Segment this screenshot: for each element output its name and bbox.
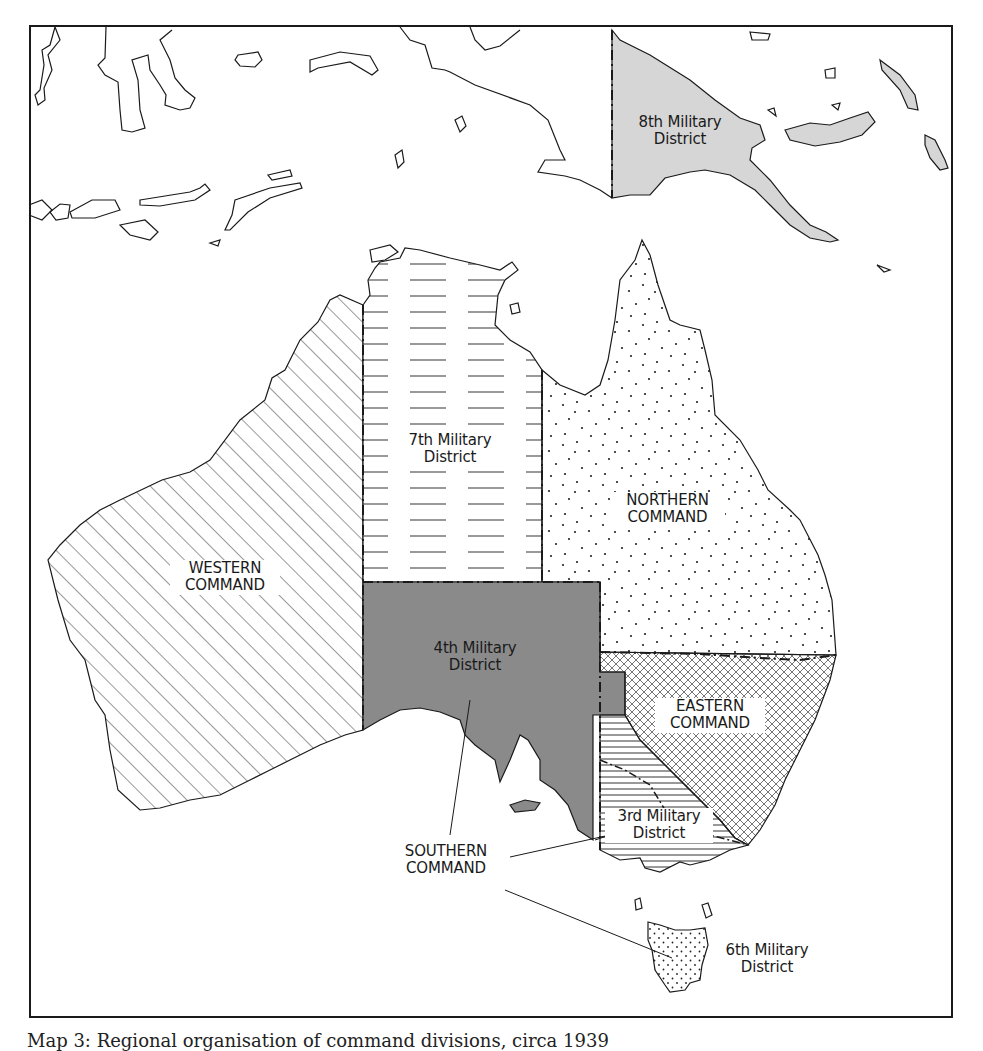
label-6th-line2: District [712, 959, 822, 976]
label-7th-military-district: 7th Military District [395, 432, 505, 467]
label-southern-command: SOUTHERN COMMAND [390, 843, 502, 878]
label-western-command: WESTERN COMMAND [170, 560, 280, 595]
map-caption: Map 3: Regional organisation of command … [27, 1030, 609, 1051]
label-3rd-line2: District [605, 825, 713, 842]
bass-strait-islands [635, 898, 712, 918]
region-6th-military-district [648, 922, 708, 992]
label-4th-line1: 4th Military [420, 640, 530, 657]
label-3rd-military-district: 3rd Military District [605, 808, 713, 843]
label-northern-command: NORTHERN COMMAND [610, 492, 725, 527]
label-4th-military-district: 4th Military District [420, 640, 530, 675]
label-eastern-command: EASTERN COMMAND [655, 698, 765, 733]
label-western-line1: WESTERN [170, 560, 280, 577]
label-eastern-line1: EASTERN [655, 698, 765, 715]
label-eastern-line2: COMMAND [655, 715, 765, 732]
northern-islands [29, 27, 612, 246]
label-8th-line2: District [625, 131, 735, 148]
label-6th-line1: 6th Military [712, 942, 822, 959]
label-3rd-line1: 3rd Military [605, 808, 713, 825]
label-6th-military-district: 6th Military District [712, 942, 822, 977]
label-northern-line1: NORTHERN [610, 492, 725, 509]
label-northern-line2: COMMAND [610, 509, 725, 526]
label-7th-line2: District [395, 449, 505, 466]
label-southern-line2: COMMAND [390, 860, 502, 877]
region-8th-military-district [612, 30, 948, 272]
label-8th-line1: 8th Military [625, 114, 735, 131]
label-4th-line2: District [420, 657, 530, 674]
label-8th-military-district: 8th Military District [625, 114, 735, 149]
label-southern-line1: SOUTHERN [390, 843, 502, 860]
region-western-command [48, 295, 363, 810]
label-7th-line1: 7th Military [395, 432, 505, 449]
label-western-line2: COMMAND [170, 577, 280, 594]
region-7th-military-district [363, 245, 542, 582]
